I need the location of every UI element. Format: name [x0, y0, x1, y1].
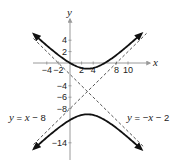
y-tick-label: 2 — [62, 47, 67, 57]
series-group — [33, 33, 146, 149]
hyperbola-plot: x y −4−224810 42−4−6−8−14 y = x − 8 y = … — [0, 0, 182, 166]
hyperbola-lower-branch — [34, 114, 141, 149]
y-tick-label: −4 — [57, 81, 67, 91]
asymptote-label-right: y = −x − 2 — [126, 111, 169, 123]
x-tick-label: −2 — [53, 65, 63, 75]
y-tick-label: 4 — [62, 35, 67, 45]
x-tick-label: 4 — [91, 65, 96, 75]
y-axis-label: y — [66, 6, 72, 18]
y-tick-label: −6 — [57, 92, 67, 102]
asymptote-y-eq-neg-x-minus-2 — [33, 38, 144, 147]
x-axis-label: x — [152, 56, 158, 68]
x-tick-label: 10 — [123, 65, 133, 75]
y-tick-label: −8 — [57, 104, 67, 114]
asymptote-label-left: y = x − 8 — [8, 111, 46, 123]
asymptote-y-eq-x-minus-8 — [33, 33, 146, 144]
x-tick-labels: −4−224810 — [42, 65, 133, 75]
x-tick-label: 8 — [114, 65, 119, 75]
y-tick-label: −14 — [52, 138, 67, 148]
x-tick-label: 2 — [79, 65, 84, 75]
x-tick-label: −4 — [42, 65, 52, 75]
